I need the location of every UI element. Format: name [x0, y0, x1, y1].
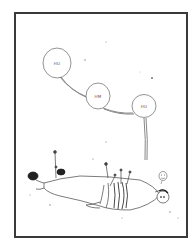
speech-bubble-1-text: HU	[54, 61, 61, 66]
speech-bubble-2: HM	[86, 83, 110, 109]
speech-bubble-3-text: HU	[141, 104, 148, 109]
lying-figure	[28, 169, 169, 210]
speech-bubble-3: HU	[132, 95, 156, 118]
speech-bubble-2-text: HM	[94, 94, 101, 99]
thought-bubble	[159, 172, 167, 185]
comic-scene: HU HM HU	[0, 0, 196, 249]
speech-bubble-1: HU	[43, 48, 71, 78]
